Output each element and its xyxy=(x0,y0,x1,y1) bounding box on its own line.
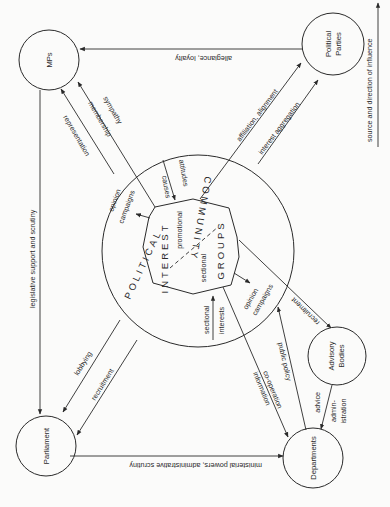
svg-text:admin-: admin- xyxy=(329,399,338,422)
legend: source and direction of influence xyxy=(365,3,378,147)
node-parliament: Parliament xyxy=(16,416,76,476)
edge-allegiance: allegiance, loyalty xyxy=(80,49,302,63)
node-parties-label-2: Parties xyxy=(334,32,343,56)
svg-text:sectional: sectional xyxy=(202,305,211,334)
node-advisory-bodies: Advisory Bodies xyxy=(308,327,366,385)
node-mps: MPs xyxy=(19,30,79,90)
groups-label: GROUPS xyxy=(215,220,226,279)
svg-text:allegiance, loyalty: allegiance, loyalty xyxy=(175,54,232,63)
edge-causes-attitudes: causes attitudes xyxy=(160,159,191,200)
edge-interest-aggregation: interest aggregation xyxy=(256,80,318,164)
promotional-label: promotional xyxy=(175,211,184,249)
node-parties-label-1: Political xyxy=(324,31,333,57)
node-parliament-label: Parliament xyxy=(42,427,51,464)
node-advisory-label-2: Bodies xyxy=(337,344,346,367)
edge-sectional-interests: sectional interests xyxy=(202,296,226,340)
svg-text:istration: istration xyxy=(339,398,348,423)
edge-opinion-campaigns-right: opinion campaigns xyxy=(234,273,275,317)
edge-legislative: legislative support and scrutiny xyxy=(28,90,40,414)
edge-ministerial: ministerial powers, administrative scrut… xyxy=(70,456,283,470)
political-community-ring: INTEREST GROUPS promotional sectional PO… xyxy=(102,155,294,347)
svg-text:advice: advice xyxy=(313,392,322,413)
edge-public-policy: public policy xyxy=(276,307,306,430)
legend-label: source and direction of influence xyxy=(365,39,374,143)
node-advisory-label-1: Advisory xyxy=(327,341,336,370)
ring-label-political: POLITICAL xyxy=(122,228,164,301)
edge-advice-administration: advice admin- istration xyxy=(313,385,348,429)
edge-membership-sympathy: membership sympathy xyxy=(78,82,155,207)
edge-affiliation: affiliation, alignment xyxy=(200,63,301,199)
interest-groups-diagram: source and direction of influence MPs Po… xyxy=(0,0,390,507)
svg-text:causes: causes xyxy=(160,175,173,199)
ring-label-community: COMMUNITY xyxy=(188,176,214,262)
edge-opinion-campaigns-left: opinion campaigns xyxy=(106,188,150,225)
node-mps-label: MPs xyxy=(45,52,54,67)
svg-text:recruitment: recruitment xyxy=(89,367,116,402)
svg-text:legislative support and scruti: legislative support and scrutiny xyxy=(28,209,37,308)
svg-text:ministerial powers, administra: ministerial powers, administrative scrut… xyxy=(129,461,262,470)
svg-text:interests: interests xyxy=(217,306,226,334)
svg-text:attitudes: attitudes xyxy=(177,159,191,188)
svg-text:representation: representation xyxy=(61,114,92,158)
svg-text:public policy: public policy xyxy=(276,341,294,382)
node-departments-label: Departments xyxy=(309,436,318,480)
node-departments: Departments xyxy=(283,428,343,488)
node-political-parties: Political Parties xyxy=(302,13,364,75)
svg-text:recruitment: recruitment xyxy=(289,296,321,327)
svg-text:lobbying: lobbying xyxy=(72,350,94,377)
